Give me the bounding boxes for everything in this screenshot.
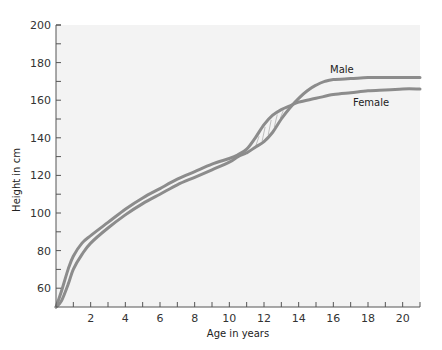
y-tick-label: 100 [30,207,51,220]
x-tick-label: 18 [361,312,375,325]
x-tick-label: 12 [257,312,271,325]
y-tick-label: 160 [30,94,51,107]
x-tick-label: 6 [157,312,164,325]
series-label-male: Male [330,64,354,75]
x-tick-label: 14 [292,312,306,325]
y-axis-label: Height in cm [11,148,22,212]
x-tick-label: 10 [222,312,236,325]
y-tick-label: 140 [30,132,51,145]
growth-chart: 24681012141618206080100120140160180200 A… [0,0,442,350]
x-tick-label: 8 [191,312,198,325]
x-tick-label: 20 [396,312,410,325]
plot-background [56,25,420,307]
series-label-female: Female [353,97,389,108]
y-tick-label: 200 [30,19,51,32]
x-axis-label: Age in years [207,328,269,339]
y-tick-label: 80 [37,245,51,258]
y-tick-label: 120 [30,169,51,182]
y-tick-label: 60 [37,282,51,295]
x-tick-label: 4 [122,312,129,325]
x-tick-label: 16 [326,312,340,325]
y-tick-label: 180 [30,57,51,70]
x-tick-label: 2 [87,312,94,325]
